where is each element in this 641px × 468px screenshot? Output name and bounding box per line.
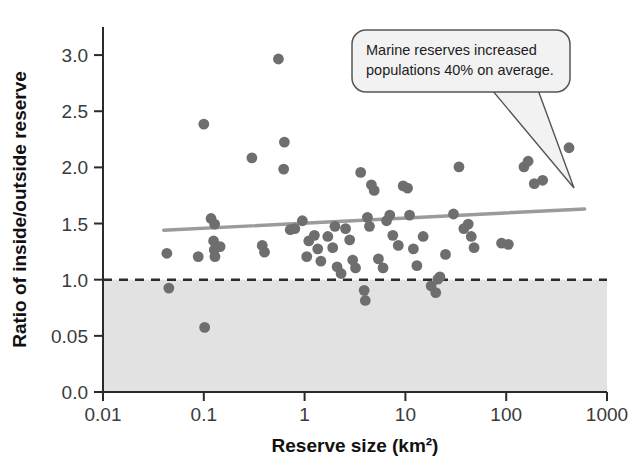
y-tick-label: 3.0 bbox=[62, 45, 88, 66]
y-tick-label: 2.5 bbox=[62, 101, 88, 122]
callout-text-line-2: populations 40% on average. bbox=[366, 62, 554, 78]
scatter-chart-figure: 0.00.051.01.52.02.53.0 0.010.11101001000… bbox=[0, 0, 641, 468]
data-point bbox=[378, 263, 389, 274]
below-one-shaded-region bbox=[103, 280, 607, 392]
data-point bbox=[362, 212, 373, 223]
data-point bbox=[454, 161, 465, 172]
chart-svg: 0.00.051.01.52.02.53.0 0.010.11101001000… bbox=[0, 0, 641, 468]
data-point bbox=[336, 268, 347, 279]
data-point bbox=[411, 260, 422, 271]
y-tick-label: 0.0 bbox=[62, 382, 88, 403]
data-point bbox=[466, 231, 477, 242]
y-axis-ticks bbox=[94, 55, 103, 392]
data-point bbox=[209, 219, 220, 230]
callout-bubble bbox=[352, 30, 570, 92]
data-point bbox=[210, 251, 221, 262]
data-point bbox=[322, 231, 333, 242]
data-point bbox=[340, 223, 351, 234]
y-tick-label: 1.5 bbox=[62, 214, 88, 235]
data-point bbox=[440, 249, 451, 260]
data-point bbox=[369, 185, 380, 196]
data-point bbox=[387, 230, 398, 241]
x-tick-label: 0.1 bbox=[191, 404, 217, 425]
data-point bbox=[327, 242, 338, 253]
data-point bbox=[301, 251, 312, 262]
data-point bbox=[199, 322, 210, 333]
data-point bbox=[537, 175, 548, 186]
x-axis-tick-labels: 0.010.11101001000 bbox=[85, 404, 629, 425]
data-point bbox=[297, 215, 308, 226]
data-point bbox=[503, 239, 514, 250]
data-point bbox=[289, 223, 300, 234]
data-point bbox=[404, 210, 415, 221]
data-point bbox=[161, 248, 172, 259]
y-tick-label: 0.05 bbox=[51, 326, 88, 347]
y-axis-tick-labels: 0.00.051.01.52.02.53.0 bbox=[51, 45, 88, 403]
data-point bbox=[430, 287, 441, 298]
data-point bbox=[350, 263, 361, 274]
y-tick-label: 1.0 bbox=[62, 270, 88, 291]
data-point bbox=[163, 283, 174, 294]
callout-tail bbox=[492, 90, 574, 188]
data-point bbox=[408, 243, 419, 254]
x-tick-label: 100 bbox=[490, 404, 522, 425]
data-point bbox=[215, 241, 226, 252]
data-point bbox=[344, 234, 355, 245]
data-point bbox=[278, 164, 289, 175]
data-point bbox=[469, 242, 480, 253]
data-point bbox=[309, 230, 320, 241]
x-tick-label: 10 bbox=[395, 404, 416, 425]
data-point bbox=[198, 119, 209, 130]
data-point bbox=[463, 219, 474, 230]
data-point bbox=[360, 295, 371, 306]
data-point bbox=[384, 210, 395, 221]
y-tick-label: 2.0 bbox=[62, 157, 88, 178]
data-point bbox=[435, 271, 446, 282]
data-point bbox=[193, 251, 204, 262]
data-point bbox=[312, 243, 323, 254]
callout-text-line-1: Marine reserves increased bbox=[366, 42, 537, 58]
data-point bbox=[259, 247, 270, 258]
data-point bbox=[273, 54, 284, 65]
data-point bbox=[330, 221, 341, 232]
data-point bbox=[359, 285, 370, 296]
x-tick-label: 1000 bbox=[586, 404, 628, 425]
data-point bbox=[448, 209, 459, 220]
data-point bbox=[246, 152, 257, 163]
data-point bbox=[355, 167, 366, 178]
y-axis-title: Ratio of inside/outside reserve bbox=[9, 71, 30, 348]
x-tick-label: 1 bbox=[299, 404, 310, 425]
data-point bbox=[279, 137, 290, 148]
x-tick-label: 0.01 bbox=[85, 404, 122, 425]
data-point bbox=[564, 142, 575, 153]
data-point bbox=[364, 221, 375, 232]
data-point bbox=[418, 231, 429, 242]
data-point bbox=[402, 183, 413, 194]
data-point bbox=[523, 156, 534, 167]
x-axis-ticks bbox=[103, 392, 607, 401]
x-axis-title: Reserve size (km²) bbox=[272, 435, 439, 456]
data-point bbox=[315, 256, 326, 267]
data-point bbox=[393, 240, 404, 251]
